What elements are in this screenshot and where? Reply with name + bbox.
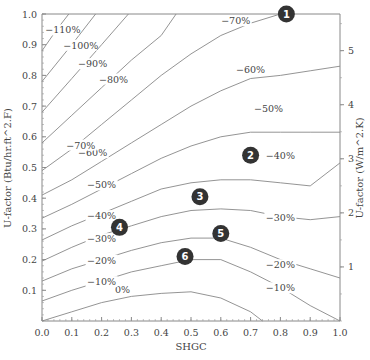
x-tick-label: 0.6	[213, 327, 228, 338]
badge-number: 1	[283, 9, 290, 20]
y-tick-label: 0.5	[22, 162, 37, 173]
contour-line--40pct	[42, 163, 340, 240]
badge-number: 5	[217, 228, 224, 239]
contour-chart: 0.00.10.20.30.40.50.60.70.80.91.00.10.20…	[0, 0, 370, 360]
y2-axis-title: U-factor (W/m^2.K)	[354, 117, 365, 218]
y-axis-title: U-factor (Btu/hr.ft^2.F)	[2, 108, 13, 228]
annotation-badge-5: 5	[212, 225, 229, 242]
y2-tick-label: 5	[348, 45, 354, 56]
contour-label: −80%	[99, 74, 128, 85]
x-tick-label: 0.4	[154, 327, 169, 338]
x-tick-label: 1.0	[332, 327, 347, 338]
y-tick-label: 0.6	[22, 131, 37, 142]
y-tick-label: 0.9	[22, 39, 37, 50]
y-tick-label: 1.0	[22, 9, 37, 20]
annotation-badge-6: 6	[177, 248, 194, 265]
annotation-badge-2: 2	[242, 147, 259, 164]
annotation-badge-4: 4	[111, 219, 128, 236]
contour-line-0pct	[42, 292, 263, 321]
contour-label: −70%	[66, 140, 95, 151]
badge-number: 6	[182, 251, 189, 262]
contour-label: −110%	[45, 24, 80, 35]
contour-line--60pct	[42, 66, 340, 195]
y-tick-label: 0.8	[22, 70, 37, 81]
contour-label: −40%	[266, 150, 295, 161]
contour-label: −10%	[266, 282, 295, 293]
y2-tick-label: 4	[348, 99, 354, 110]
x-tick-label: 0.5	[183, 327, 198, 338]
contour-label: −50%	[254, 103, 283, 114]
x-tick-label: 0.7	[243, 327, 258, 338]
x-tick-label: 0.8	[273, 327, 288, 338]
y-tick-label: 0.7	[22, 101, 37, 112]
x-tick-label: 0.1	[64, 327, 79, 338]
y-tick-label: 0.4	[22, 193, 37, 204]
y2-tick-label: 1	[348, 261, 354, 272]
annotation-badge-1: 1	[278, 6, 295, 23]
contour-label: −20%	[266, 259, 295, 270]
contour-label: −30%	[266, 212, 295, 223]
annotation-badges: 123456	[111, 6, 295, 266]
contour-label: −100%	[63, 40, 98, 51]
y-tick-label: 0.2	[22, 254, 37, 265]
y-tick-label: 0.3	[22, 223, 37, 234]
x-tick-label: 0.3	[124, 327, 139, 338]
contour-label: −40%	[87, 210, 116, 221]
x-tick-label: 0.9	[303, 327, 318, 338]
contour-label: −90%	[78, 58, 107, 69]
contour-label: −30%	[87, 233, 116, 244]
contour-label: −60%	[236, 64, 265, 75]
contour-label: −50%	[87, 179, 116, 190]
y-tick-label: 0.1	[22, 285, 37, 296]
x-tick-label: 0.0	[34, 327, 49, 338]
contour-label: −10%	[87, 276, 116, 287]
x-tick-label: 0.2	[94, 327, 109, 338]
badge-number: 4	[116, 222, 123, 233]
contour-label: −70%	[221, 15, 250, 26]
annotation-badge-3: 3	[191, 188, 208, 205]
x-axis-title: SHGC	[175, 341, 207, 352]
axis-ticks: 0.00.10.20.30.40.50.60.70.80.91.00.10.20…	[22, 9, 354, 339]
badge-number: 2	[247, 150, 254, 161]
badge-number: 3	[196, 191, 203, 202]
contour-label: −20%	[87, 255, 116, 266]
